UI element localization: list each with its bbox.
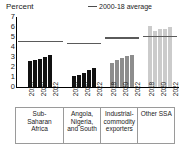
category-label-line: Nigeria, [67, 118, 97, 126]
x-tick: 2020 [38, 88, 43, 108]
average-reference-line [18, 41, 63, 42]
x-tick: 2022 [50, 88, 55, 108]
y-tick-label: 2 [11, 63, 15, 71]
x-tick-label: 2022 [96, 82, 103, 96]
y-axis-tick-labels: 01234567 [4, 14, 15, 88]
category-label-line: exporters [104, 125, 135, 133]
x-tick: 2018 [108, 88, 113, 108]
x-tick [88, 88, 93, 108]
category-label-text: Angola,Nigeria,and South [66, 110, 98, 133]
bar-group [65, 17, 103, 87]
bar [153, 31, 157, 87]
y-axis-unit-label: Percent [6, 2, 34, 11]
y-tick-label: 6 [11, 23, 15, 31]
category-label-line: Other SSA [141, 110, 172, 118]
bar-group [141, 17, 178, 87]
bar [158, 29, 162, 87]
category-label-line: Angola, [67, 110, 97, 118]
bar-group [16, 17, 65, 87]
x-axis-tick-row: 2018202020222018202020222018202020222018… [16, 88, 179, 108]
category-label-line: Industrial- [104, 110, 135, 118]
average-reference-line [67, 43, 101, 44]
bars [65, 17, 103, 87]
x-tick: 2022 [170, 88, 175, 108]
x-tick [164, 88, 169, 108]
x-tick: 2018 [146, 88, 151, 108]
category-label-line: commodity [104, 118, 135, 126]
x-tick [44, 88, 49, 108]
x-tick: 2022 [94, 88, 99, 108]
plot-area [16, 17, 179, 87]
average-reference-line [105, 37, 139, 38]
category-label: Other SSA [137, 107, 174, 144]
category-label-line: Africa [27, 125, 52, 133]
category-label-row: Sub-SaharanAfricaAngola,Nigeria,and Sout… [16, 107, 179, 144]
x-tick-label: 2022 [52, 82, 59, 96]
x-tick [152, 88, 157, 108]
bar-groups [16, 17, 179, 87]
x-tick: 2020 [82, 88, 87, 108]
category-label-line: Saharan [27, 118, 52, 126]
tick-group: 201820202022 [16, 88, 65, 108]
bar [163, 29, 167, 87]
x-tick: 2018 [70, 88, 75, 108]
x-tick [32, 88, 37, 108]
category-label-line: and South [67, 125, 97, 133]
bars [16, 17, 65, 87]
category-label-text: Other SSA [140, 110, 173, 118]
category-label: Sub-SaharanAfrica [15, 107, 64, 144]
legend-label: 2000-18 average [99, 2, 152, 11]
tick-group: 201820202022 [103, 88, 141, 108]
chart-legend: 2000-18 average [88, 2, 152, 11]
x-tick [114, 88, 119, 108]
x-tick: 2020 [120, 88, 125, 108]
bar-group [103, 17, 141, 87]
y-tick-label: 4 [11, 43, 15, 51]
x-tick [76, 88, 81, 108]
category-label-text: Industrial-commodityexporters [103, 110, 136, 133]
bar-chart: Percent 2000-18 average 01234567 2018202… [0, 0, 185, 146]
y-tick-label: 3 [11, 53, 15, 61]
average-reference-line [143, 36, 176, 37]
x-tick: 2018 [26, 88, 31, 108]
y-tick-label: 1 [11, 73, 15, 81]
x-tick [126, 88, 131, 108]
bars [103, 17, 141, 87]
y-tick-label: 5 [11, 33, 15, 41]
legend-line-swatch [88, 6, 97, 7]
category-label: Industrial-commodityexporters [100, 107, 138, 144]
category-label: Angola,Nigeria,and South [63, 107, 101, 144]
x-tick-label: 2022 [134, 82, 141, 96]
x-tick: 2020 [158, 88, 163, 108]
tick-group: 201820202022 [141, 88, 178, 108]
x-tick-label: 2022 [172, 82, 179, 96]
y-tick-label: 0 [11, 83, 15, 91]
category-label-line: Sub- [27, 110, 52, 118]
bars [141, 17, 178, 87]
tick-group: 201820202022 [65, 88, 103, 108]
category-label-text: Sub-SaharanAfrica [26, 110, 53, 133]
x-tick: 2022 [132, 88, 137, 108]
y-tick-label: 7 [11, 13, 15, 21]
